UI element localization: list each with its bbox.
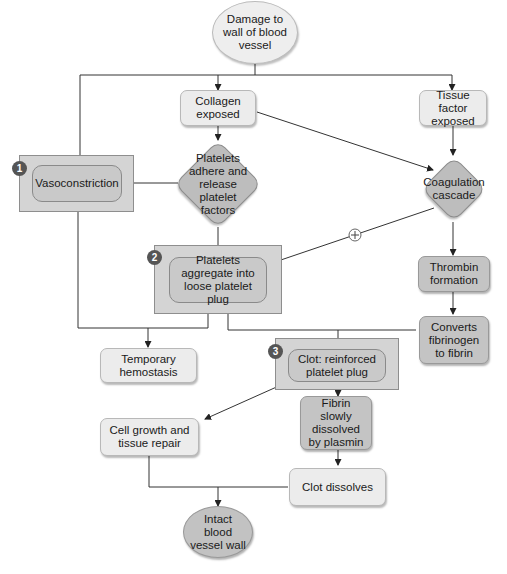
platelets-adhere-label: Platelets adhere and release platelet fa…: [184, 152, 252, 217]
cell-growth-node: Cell growth and tissue repair: [100, 418, 199, 456]
step-2-badge: 2: [147, 250, 162, 265]
step-1-badge: 1: [12, 161, 27, 176]
tissue-factor-label: Tissue factor exposed: [424, 89, 482, 128]
fibrin-dissolved-label: Fibrin slowly dissolved by plasmin: [305, 397, 367, 449]
thrombin-label: Thrombin formation: [423, 261, 485, 287]
coagulation-label: Coagulation cascade: [422, 176, 486, 202]
step-3-badge: 3: [268, 344, 283, 359]
vasoconstriction-label: Vasoconstriction: [35, 177, 119, 190]
converts-fibrinogen-node: Converts fibrinogen to fibrin: [419, 316, 489, 364]
temporary-hemostasis-node: Temporary hemostasis: [100, 348, 197, 383]
temporary-label: Temporary hemostasis: [107, 353, 190, 379]
vasoconstriction-node: Vasoconstriction: [32, 165, 122, 202]
damage-to-vessel-node: Damage to wall of blood vessel: [212, 1, 298, 64]
clot-dissolves-node: Clot dissolves: [289, 468, 386, 506]
tissue-factor-exposed-node: Tissue factor exposed: [419, 90, 487, 126]
collagen-label: Collagen exposed: [187, 95, 249, 121]
clot-dissolves-label: Clot dissolves: [302, 481, 373, 494]
clot-reinforced-node: Clot: reinforced platelet plug: [288, 349, 386, 382]
fibrin-dissolved-node: Fibrin slowly dissolved by plasmin: [300, 396, 372, 450]
feedback-plus-icon: [349, 229, 361, 241]
coagulation-cascade-decision: Coagulation cascade: [422, 155, 486, 223]
platelets-adhere-decision: Platelets adhere and release platelet fa…: [174, 140, 262, 228]
converts-label: Converts fibrinogen to fibrin: [424, 321, 484, 360]
intact-vessel-node: Intact blood vessel wall: [183, 506, 253, 558]
cell-growth-label: Cell growth and tissue repair: [107, 424, 192, 450]
intact-label: Intact blood vessel wall: [190, 513, 246, 552]
platelets-aggregate-label: Platelets aggregate into loose platelet …: [174, 254, 262, 306]
collagen-exposed-node: Collagen exposed: [180, 90, 256, 126]
platelets-aggregate-node: Platelets aggregate into loose platelet …: [169, 257, 267, 303]
clot-label: Clot: reinforced platelet plug: [293, 353, 381, 379]
hemostasis-flowchart: Damage to wall of blood vessel Collagen …: [0, 0, 507, 574]
damage-label: Damage to wall of blood vessel: [221, 13, 289, 52]
thrombin-formation-node: Thrombin formation: [418, 256, 490, 292]
